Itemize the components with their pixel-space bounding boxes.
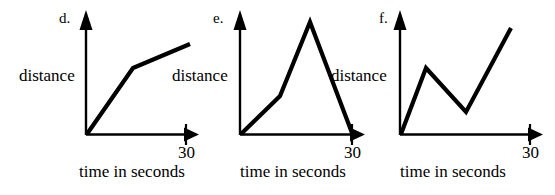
panel-letter-e: e. [213, 11, 223, 26]
x-axis-label-f: time in seconds [400, 163, 506, 180]
three-graph-figure: d. distance 30 time in seconds e. distan… [0, 0, 555, 195]
x-axis-label-e: time in seconds [240, 163, 346, 180]
y-axis-label-d: distance [19, 67, 75, 84]
x-axis-label-d: time in seconds [79, 163, 185, 180]
graph-panel-e: e. distance 30 time in seconds [200, 0, 375, 195]
y-axis-d [80, 10, 93, 135]
x-axis-d [86, 124, 199, 145]
x-tick-label-30-d: 30 [178, 144, 195, 161]
y-axis-e [234, 10, 247, 135]
panel-letter-f: f. [379, 11, 388, 26]
y-axis-label-f: distance [331, 67, 387, 84]
y-axis-f [394, 10, 407, 135]
y-axis-label-e: distance [172, 67, 228, 84]
panel-letter-d: d. [59, 11, 70, 26]
x-axis-f [400, 124, 543, 145]
graph-panel-f: f. distance 30 time in seconds [375, 0, 555, 195]
x-tick-label-30-f: 30 [522, 144, 539, 161]
graph-panel-d: d. distance 30 time in seconds [0, 0, 200, 195]
x-axis-e [240, 124, 365, 145]
x-tick-label-30-e: 30 [344, 144, 361, 161]
data-line-d [87, 44, 190, 134]
data-line-f [401, 28, 511, 134]
